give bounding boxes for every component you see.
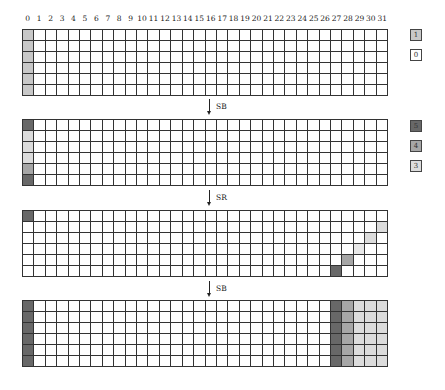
grid-cell	[148, 85, 159, 96]
grid-cell	[69, 255, 80, 266]
grid-cell	[297, 63, 308, 74]
grid-cell	[342, 164, 353, 175]
grid-cell	[34, 41, 45, 52]
grid-cell	[69, 85, 80, 96]
column-label: 3	[56, 12, 67, 26]
grid-cell	[285, 233, 296, 244]
grid-cell	[285, 153, 296, 164]
grid-cell	[80, 356, 91, 367]
grid-cell	[114, 74, 125, 85]
grid-cell	[377, 323, 388, 334]
grid-cell	[251, 334, 262, 345]
grid-cell	[91, 41, 102, 52]
grid-cell	[377, 222, 388, 233]
grid-cell	[103, 63, 114, 74]
legend-item-1: 1	[410, 29, 422, 41]
grid-cell	[228, 312, 239, 323]
grid-cell	[23, 312, 34, 323]
grid-cell	[331, 323, 342, 334]
grid-cell	[34, 255, 45, 266]
grid-cell	[308, 345, 319, 356]
grid-cell	[160, 334, 171, 345]
grid-cell	[148, 255, 159, 266]
grid-cell	[69, 244, 80, 255]
grid-cell	[274, 334, 285, 345]
grid-cell	[103, 244, 114, 255]
grid-cell	[228, 266, 239, 277]
grid-cell	[263, 131, 274, 142]
grid-cell	[331, 153, 342, 164]
grid-cell	[206, 255, 217, 266]
grid-cell	[285, 222, 296, 233]
grid-cell	[274, 244, 285, 255]
grid-cell	[377, 233, 388, 244]
grid-cell	[206, 345, 217, 356]
grid-cell	[137, 52, 148, 63]
grid-cell	[57, 356, 68, 367]
grid-cell	[23, 142, 34, 153]
grid-cell	[126, 301, 137, 312]
grid-cell	[285, 334, 296, 345]
grid-cell	[297, 41, 308, 52]
column-label: 26	[319, 12, 330, 26]
grid-cell	[183, 52, 194, 63]
grid-cell	[171, 30, 182, 41]
grid-cell	[365, 52, 376, 63]
grid-cell	[217, 356, 228, 367]
grid-cell	[34, 323, 45, 334]
grid-cell	[354, 85, 365, 96]
grid-cell	[103, 41, 114, 52]
grid-cell	[342, 41, 353, 52]
grid-cell	[365, 63, 376, 74]
grid-cell	[137, 356, 148, 367]
grid-cell	[69, 131, 80, 142]
grid-cell	[263, 41, 274, 52]
grid-cell	[91, 153, 102, 164]
grid-cell	[308, 164, 319, 175]
grid-cell	[80, 233, 91, 244]
grid-cell	[297, 312, 308, 323]
grid-cell	[34, 164, 45, 175]
grid-cell	[342, 153, 353, 164]
grid-cell	[206, 211, 217, 222]
grid-cell	[217, 175, 228, 186]
grid-cell	[331, 63, 342, 74]
grid-cell	[377, 30, 388, 41]
grid-cell	[80, 312, 91, 323]
grid-cell	[228, 164, 239, 175]
grid-cell	[274, 131, 285, 142]
grid-cell	[46, 312, 57, 323]
grid-cell	[80, 175, 91, 186]
grid-cell	[148, 233, 159, 244]
grid-cell	[160, 74, 171, 85]
grid-cell	[228, 30, 239, 41]
grid-cell	[183, 85, 194, 96]
grid-cell	[137, 334, 148, 345]
grid-cell	[171, 301, 182, 312]
grid-cell	[34, 301, 45, 312]
column-label: 10	[136, 12, 147, 26]
grid-cell	[285, 211, 296, 222]
arrow-sb: SB	[209, 279, 227, 297]
grid-cell	[320, 233, 331, 244]
grid-cell	[114, 153, 125, 164]
grid-cell	[34, 142, 45, 153]
grid-cell	[274, 142, 285, 153]
grid-cell	[228, 41, 239, 52]
grid-cell	[365, 255, 376, 266]
grid-cell	[46, 175, 57, 186]
grid-cell	[354, 345, 365, 356]
grid-cell	[57, 120, 68, 131]
grid-cell	[160, 131, 171, 142]
grid-cell	[57, 52, 68, 63]
grid-cell	[114, 266, 125, 277]
grid-cell	[263, 301, 274, 312]
grid-cell	[57, 323, 68, 334]
grid-cell	[57, 233, 68, 244]
grid-cell	[206, 30, 217, 41]
grid-cell	[126, 345, 137, 356]
grid-cell	[297, 334, 308, 345]
column-label: 17	[216, 12, 227, 26]
column-label: 5	[79, 12, 90, 26]
grid-cell	[228, 211, 239, 222]
